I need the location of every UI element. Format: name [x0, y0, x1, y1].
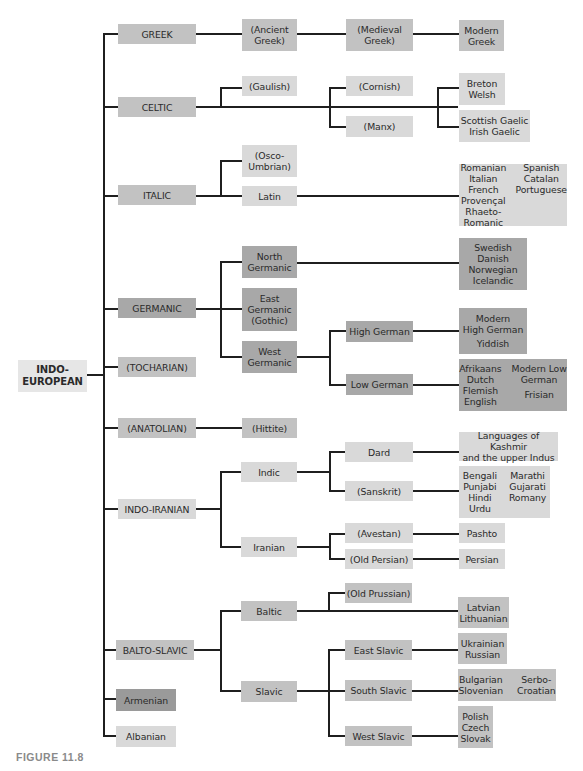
node-label: Modern Low: [512, 363, 567, 374]
figure-caption: FIGURE 11.8: [16, 751, 84, 763]
node-label: ITALIC: [143, 190, 171, 201]
connector: [437, 87, 459, 89]
node-label: Languages of Kashmir: [459, 430, 558, 452]
node-label: BALTO-SLAVIC: [123, 645, 188, 656]
node-label: Urdu: [469, 503, 491, 514]
connector: [297, 546, 330, 548]
connector: [196, 33, 242, 35]
connector: [328, 649, 330, 736]
node-label: Modern: [464, 25, 498, 36]
node-gaelic: Scottish GaelicIrish Gaelic: [459, 110, 530, 142]
node-label: Scottish Gaelic: [461, 115, 529, 126]
node-south-slavic-languages: Bulgarian Slovenian Serbo- Croatian: [458, 669, 556, 701]
node-label: High German: [463, 324, 523, 335]
node-label: North: [257, 251, 283, 262]
connector: [413, 384, 459, 386]
node-label: Lithuanian: [460, 613, 508, 624]
node-label: Germanic: [247, 357, 291, 368]
node-label: Russian: [465, 649, 500, 660]
node-label: Afrikaans: [459, 363, 501, 374]
node-label: Danish: [477, 253, 508, 264]
node-cornish: (Cornish): [346, 76, 413, 96]
node-label: (Hittite): [252, 423, 287, 434]
node-label: (Medieval: [357, 24, 401, 35]
node-north-germanic-languages: Swedish Danish Norwegian Icelandic: [459, 238, 527, 290]
node-modern-greek: ModernGreek: [459, 20, 504, 51]
node-label: Croatian: [517, 685, 556, 696]
node-hittite: (Hittite): [242, 418, 297, 438]
node-low-german: Low German: [346, 374, 413, 395]
connector: [297, 690, 346, 692]
connector: [412, 690, 459, 692]
node-label: (Cornish): [359, 81, 400, 92]
node-label: East Slavic: [354, 645, 403, 656]
connector: [297, 262, 459, 264]
connector: [329, 330, 346, 332]
node-label: High German: [349, 326, 409, 337]
node-medieval-greek: (MedievalGreek): [346, 19, 413, 51]
node-label: EUROPEAN: [22, 376, 83, 388]
connector: [194, 649, 221, 651]
connector: [328, 592, 346, 594]
connector: [413, 451, 459, 453]
node-label: Slovenian: [458, 685, 503, 696]
node-label: Bengali: [463, 470, 497, 481]
connector: [220, 261, 222, 358]
node-high-german: High German: [346, 321, 413, 342]
node-manx: (Manx): [346, 116, 413, 137]
node-slavic: Slavic: [241, 681, 297, 702]
node-pashto: Pashto: [459, 523, 505, 543]
connector: [220, 690, 242, 692]
node-osco-umbrian: (Osco-Umbrian): [242, 145, 297, 177]
node-label: German: [521, 374, 558, 385]
node-label: East: [260, 293, 280, 304]
connector: [220, 356, 242, 358]
node-label: Slovak: [460, 733, 490, 744]
node-label: Latvian: [467, 602, 501, 613]
connector: [104, 195, 118, 197]
node-high-german-languages: Modern High German Yiddish: [459, 308, 527, 354]
connector: [329, 490, 346, 492]
node-label: Germanic: [247, 304, 291, 315]
node-iranian: Iranian: [241, 537, 297, 557]
node-south-slavic: South Slavic: [345, 680, 412, 701]
connector: [413, 558, 459, 560]
connector: [437, 126, 459, 128]
node-label: Flemish: [463, 385, 498, 396]
node-latin: Latin: [242, 186, 297, 206]
node-balto-slavic: BALTO-SLAVIC: [116, 640, 194, 660]
node-east-slavic: East Slavic: [345, 640, 412, 660]
node-label: (Avestan): [357, 528, 400, 539]
node-label: Armenian: [124, 695, 168, 706]
connector: [329, 533, 331, 560]
node-label: Catalan: [524, 173, 559, 184]
connector: [220, 160, 242, 162]
connector: [220, 546, 242, 548]
node-label: Dutch: [467, 374, 494, 385]
node-anatolian: (ANATOLIAN): [118, 418, 196, 438]
node-label: West: [258, 346, 280, 357]
node-label: Provençal: [461, 195, 505, 206]
node-label: Serbo-: [521, 674, 551, 685]
connector: [87, 374, 104, 376]
node-label: Pashto: [467, 528, 497, 539]
connector: [220, 610, 242, 612]
node-label: Rhaeto-Romanic: [459, 206, 508, 228]
node-albanian: Albanian: [116, 726, 176, 747]
node-label: INDO-: [36, 364, 69, 376]
node-label: (TOCHARIAN): [126, 362, 188, 373]
connector: [329, 451, 331, 492]
node-label: Low German: [351, 379, 409, 390]
node-label: French: [468, 184, 498, 195]
node-indic: Indic: [241, 462, 297, 482]
node-persian: Persian: [459, 549, 505, 569]
node-north-germanic: NorthGermanic: [242, 246, 297, 278]
connector: [220, 87, 222, 107]
node-ancient-greek: (AncientGreek): [242, 19, 297, 51]
node-armenian: Armenian: [116, 689, 176, 711]
node-old-prussian: (Old Prussian): [345, 583, 412, 603]
node-label: Ukrainian: [461, 638, 504, 649]
node-breton-welsh: BretonWelsh: [459, 73, 505, 105]
node-label: Frisian: [524, 389, 553, 400]
node-old-persian: (Old Persian): [345, 549, 413, 569]
